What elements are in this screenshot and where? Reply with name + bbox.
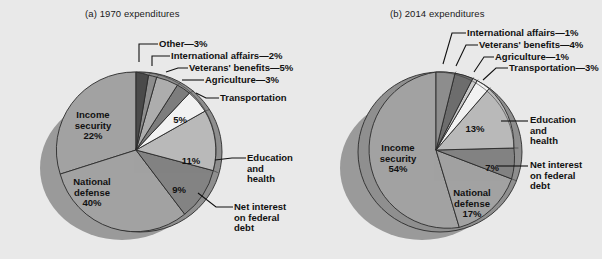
- callout-a-international-affairs: International affairs—2%: [171, 51, 282, 62]
- leader-b-international: [443, 33, 466, 64]
- label-a-income-security-line1: Income: [58, 110, 128, 121]
- callout-b-netinterest-line1: Net interest: [530, 160, 582, 171]
- callout-a-veterans-benefits: Veterans' benefits—5%: [189, 63, 293, 74]
- callout-b-agriculture: Agriculture—1%: [495, 52, 569, 63]
- label-b-education-health-value: 13%: [460, 124, 490, 135]
- leader-b-transportation: [483, 68, 508, 80]
- callout-a-agriculture: Agriculture—3%: [205, 75, 279, 86]
- callout-b-netinterest-line3: debt: [530, 181, 582, 192]
- callout-b-education-and-health: Education and health: [530, 115, 576, 147]
- label-a-national-defense-line1: National: [55, 177, 129, 188]
- leader-b-veterans: [456, 45, 478, 66]
- leader-a-international: [152, 56, 170, 66]
- label-b-income-security-line1: Income: [362, 143, 434, 154]
- label-a-national-defense-value: 40%: [55, 198, 129, 209]
- callout-a-transportation: Transportation: [220, 93, 287, 104]
- callout-b-international-affairs: International affairs—1%: [467, 28, 578, 39]
- label-b-income-security: Income security 54%: [362, 143, 434, 175]
- callout-b-transportation: Transportation—3%: [509, 63, 599, 74]
- callout-a-education-line3: health: [247, 174, 293, 185]
- label-a-income-security: Income security 22%: [58, 110, 128, 142]
- panel-a-title: (a) 1970 expenditures: [85, 8, 180, 19]
- callout-a-education-and-health: Education and health: [247, 153, 293, 185]
- callout-a-net-interest: Net interest on federal debt: [234, 202, 286, 234]
- label-b-income-security-value: 54%: [362, 164, 434, 175]
- label-b-net-interest-value: 7%: [479, 163, 505, 174]
- callout-b-net-interest: Net interest on federal debt: [530, 160, 582, 192]
- label-a-transportation-value: 5%: [167, 115, 193, 126]
- callout-a-netinterest-line3: debt: [234, 223, 286, 234]
- leader-a-veterans: [166, 68, 188, 72]
- expenditures-figure: (a) 1970 expenditures (b) 2014 expenditu…: [0, 0, 602, 259]
- callout-b-education-line1: Education: [530, 115, 576, 126]
- callout-a-netinterest-line1: Net interest: [234, 202, 286, 213]
- callout-b-veterans-benefits: Veterans' benefits—4%: [479, 40, 583, 51]
- leader-b-agriculture: [474, 57, 494, 72]
- label-a-education-health-value: 11%: [176, 156, 206, 167]
- leader-a-other: [139, 44, 158, 62]
- panel-b-title: (b) 2014 expenditures: [390, 8, 485, 19]
- label-a-net-interest-value: 9%: [166, 185, 192, 196]
- callout-a-other: Other—3%: [159, 39, 208, 50]
- callout-b-education-line3: health: [530, 136, 576, 147]
- label-a-income-security-value: 22%: [58, 131, 128, 142]
- label-b-national-defense-value: 17%: [435, 209, 509, 220]
- label-b-national-defense: National defense 17%: [435, 188, 509, 220]
- label-b-national-defense-line1: National: [435, 188, 509, 199]
- callout-a-education-line1: Education: [247, 153, 293, 164]
- label-a-national-defense: National defense 40%: [55, 177, 129, 209]
